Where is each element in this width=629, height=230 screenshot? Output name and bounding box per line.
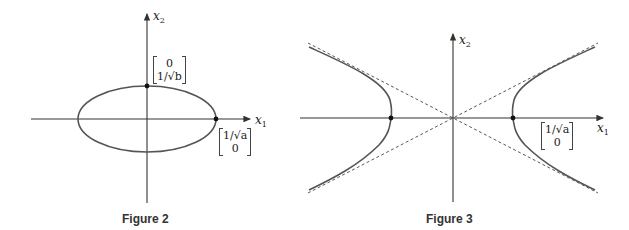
vector-entry: 1/√a: [223, 129, 247, 142]
figure-2-caption: Figure 2: [122, 212, 169, 226]
figures-canvas: x2 x1 x2 x1: [0, 0, 629, 230]
vector-entry: 1/√a: [545, 123, 569, 136]
x2-axis-label: x2: [459, 33, 471, 49]
vector-entry: 1/√b: [157, 70, 182, 83]
left-vertex-point: [389, 116, 394, 121]
vector-entry: 0: [223, 142, 247, 155]
figure-3-diagram: x2 x1: [300, 33, 609, 202]
x1-axis-label: x1: [255, 113, 267, 129]
right-vertex-vector-label: 1/√a 0: [541, 122, 573, 150]
right-vertex-point: [214, 117, 219, 122]
figure-3-caption: Figure 3: [426, 212, 473, 226]
x2-axis-label: x2: [153, 9, 165, 25]
right-vertex-vector-label: 1/√a 0: [219, 128, 251, 156]
vector-entry: 0: [157, 57, 182, 70]
right-vertex-point: [511, 116, 516, 121]
top-vertex-vector-label: 0 1/√b: [153, 56, 186, 84]
x1-axis-label: x1: [597, 121, 609, 137]
figure-2-diagram: x2 x1: [31, 9, 267, 203]
vector-entry: 0: [545, 136, 569, 149]
top-vertex-point: [145, 84, 150, 89]
